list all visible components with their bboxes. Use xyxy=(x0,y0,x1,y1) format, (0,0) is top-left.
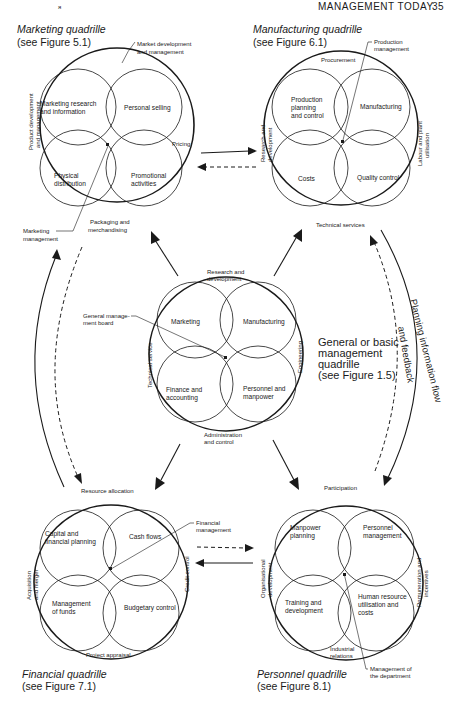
segment-label: utilisation and xyxy=(358,601,399,608)
center-label: management xyxy=(374,46,409,52)
segment-label: activities xyxy=(131,180,157,187)
segment-label: Human resource xyxy=(358,593,407,600)
center-label: management xyxy=(196,527,231,533)
running-head: MANAGEMENT TODAY xyxy=(318,1,434,12)
center-label: ment board xyxy=(83,320,113,326)
ring-label: incentives xyxy=(423,570,429,597)
segment-label: management xyxy=(363,532,402,540)
segment-label: Marketing research xyxy=(40,100,97,108)
ring-label: Research and xyxy=(207,269,244,275)
financial-circle xyxy=(103,510,179,586)
manufacturing-ref: (see Figure 6.1) xyxy=(253,36,327,48)
arrow-head-icon xyxy=(74,473,82,484)
ring-label: Participation xyxy=(324,485,357,491)
center-label: Production xyxy=(374,39,403,45)
ring-label: Research and xyxy=(260,125,266,162)
ring-label: Market development xyxy=(137,41,192,47)
financial-quadrille: Capital and financial planning Cash flow… xyxy=(22,488,231,692)
financial-ref: (see Figure 7.1) xyxy=(22,680,96,692)
segment-label: Personal selling xyxy=(124,104,171,112)
personnel-title: Personnel quadrille xyxy=(257,668,347,680)
segment-label: Personnel xyxy=(363,524,393,531)
segment-label: planning xyxy=(290,532,315,540)
ring-label: Administration xyxy=(204,432,242,438)
arrow-head-icon xyxy=(151,231,160,244)
arrow-head-icon xyxy=(155,477,165,490)
segment-label: Cash flows xyxy=(129,533,162,540)
ring-label: Acquisition xyxy=(26,571,32,600)
ring-label: Labour and plant xyxy=(417,121,423,166)
segment-label: development xyxy=(285,607,323,615)
ring-label: merchandising xyxy=(88,227,127,233)
segment-label: costs xyxy=(358,609,374,616)
flow-label: and feedback xyxy=(396,325,417,383)
segment-label: Quality control xyxy=(357,174,400,182)
general-quadrille: Marketing Manufacturing Finance and acco… xyxy=(83,269,399,445)
ring-label: Packaging and xyxy=(90,219,130,225)
marketing-ref: (see Figure 5.1) xyxy=(17,36,91,48)
marketing-circle xyxy=(40,130,116,206)
personnel-quadrille: Manpower planning Personnel management T… xyxy=(257,485,429,692)
personnel-circle xyxy=(338,575,414,651)
page-header: MANAGEMENT TODAY 35 я xyxy=(58,1,444,12)
center-label: management xyxy=(23,236,58,242)
segment-label: and control xyxy=(291,112,324,119)
ring-label: Product development xyxy=(28,93,34,150)
marketing-circle xyxy=(106,130,182,206)
segment-label: Manpower xyxy=(290,524,322,532)
manufacturing-circle xyxy=(334,130,410,206)
segment-label: of funds xyxy=(52,608,76,615)
ring-label: Technical services xyxy=(316,222,365,228)
financial-title: Financial quadrille xyxy=(22,668,107,680)
segment-label: financial planning xyxy=(45,538,96,546)
segment-label: Manufacturing xyxy=(243,318,285,326)
flow-label: Planning information flow xyxy=(408,298,444,404)
segment-label: Promotional xyxy=(131,172,167,179)
ring-label: development xyxy=(267,562,273,597)
ring-label: development xyxy=(267,127,273,162)
segment-label: manpower xyxy=(243,393,275,401)
personnel-ref: (see Figure 8.1) xyxy=(257,680,331,692)
segment-label: Management xyxy=(52,600,91,608)
ring-label: relations xyxy=(330,653,353,659)
personnel-circle xyxy=(275,510,351,586)
segment-label: Personnel and xyxy=(243,385,286,392)
arrow-head-icon xyxy=(195,559,204,567)
ring-label: Resource allocation xyxy=(81,488,134,494)
center-label: the department xyxy=(370,673,411,679)
ring-label: and merger xyxy=(33,569,39,600)
ring-label: Technical service xyxy=(147,342,153,388)
segment-label: Finance and xyxy=(166,386,203,393)
ring-label: and management xyxy=(35,101,41,148)
ring-label: Credit control xyxy=(184,556,190,592)
arrow-head-icon xyxy=(197,163,206,171)
segment-label: planning xyxy=(291,104,316,112)
ring-label: and control xyxy=(204,439,234,445)
ring-label: Pricing xyxy=(172,141,190,147)
ring-label: Remuneration and xyxy=(416,558,422,607)
ring-label: Industrial xyxy=(330,646,354,652)
ring-label: Organisational xyxy=(260,559,266,598)
segment-label: Costs xyxy=(298,175,316,182)
marketing-quadrille: Marketing quadrille (see Figure 5.1) Mar… xyxy=(17,23,194,242)
arrow-head-icon xyxy=(370,235,378,246)
marketing-circle xyxy=(40,69,116,145)
arrow-head-icon xyxy=(248,147,257,155)
arrow-head-icon xyxy=(245,544,254,552)
segment-label: and information xyxy=(40,108,86,115)
ring-label: Engineering xyxy=(297,341,303,373)
general-circle xyxy=(157,346,233,422)
segment-label: Training and xyxy=(285,599,322,607)
center-label: General manage- xyxy=(83,313,130,319)
ring-label: Project appraisal xyxy=(86,652,131,658)
segment-label: Production xyxy=(291,96,323,103)
financial-circle xyxy=(103,575,179,651)
quadrille-diagram: MANAGEMENT TODAY 35 я Marketing quadrill… xyxy=(0,0,451,704)
center-label: Marketing xyxy=(23,228,49,234)
manufacturing-outer-circle xyxy=(264,51,418,205)
ring-label: development xyxy=(207,276,242,282)
ring-label: Procurement xyxy=(321,57,356,63)
segment-label: Marketing xyxy=(171,318,200,326)
page-number: 35 xyxy=(432,1,444,12)
financial-circle xyxy=(40,510,116,586)
